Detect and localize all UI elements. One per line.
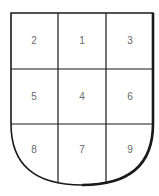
cell-label-5: 5 [31,91,37,102]
cell-label-3: 3 [127,35,133,46]
shield-diagram: 213546879 [0,0,159,196]
cell-label-7: 7 [79,144,85,155]
cell-label-6: 6 [127,91,133,102]
shield-shadow-edge [82,13,153,185]
cell-label-4: 4 [79,91,85,102]
cell-label-9: 9 [127,144,133,155]
cell-label-8: 8 [31,144,37,155]
cell-label-1: 1 [79,35,85,46]
cell-label-2: 2 [31,35,37,46]
